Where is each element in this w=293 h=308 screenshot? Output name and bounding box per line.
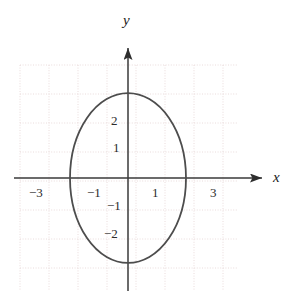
x-tick-label-pos1: 1 <box>152 186 159 199</box>
x-tick-label-pos3: 3 <box>210 186 217 199</box>
y-axis-label: y <box>123 13 130 28</box>
y-tick-label-pos1: 1 <box>113 141 120 154</box>
y-tick-label-neg2: −2 <box>104 227 118 240</box>
y-tick-label-neg1: −1 <box>107 199 121 212</box>
plot-canvas <box>0 0 293 308</box>
x-axis-label: x <box>273 170 280 185</box>
x-tick-label-neg3: −3 <box>29 186 43 199</box>
graph-figure: y x −3 −1 1 3 2 1 −1 −2 <box>0 0 293 308</box>
x-tick-label-neg1: −1 <box>87 186 101 199</box>
y-tick-label-pos2: 2 <box>111 114 118 127</box>
